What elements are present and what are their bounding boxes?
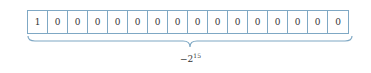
bit-cell: 0 [48,11,68,33]
bit-cell: 1 [28,11,48,33]
bit-cell: 0 [128,11,148,33]
bit-cell: 0 [168,11,188,33]
label-base: −2 [180,54,193,64]
bit-cell: 0 [208,11,228,33]
bit-cell: 0 [328,11,348,33]
underbrace [27,35,353,49]
bit-cell: 0 [248,11,268,33]
bit-cell: 0 [308,11,328,33]
bit-cell: 0 [88,11,108,33]
bit-cell: 0 [68,11,88,33]
bit-cell: 0 [148,11,168,33]
bit-cell: 0 [108,11,128,33]
label-exponent: 15 [193,52,201,59]
value-label: −215 [0,52,371,64]
bit-cell: 0 [228,11,248,33]
bit-cell: 0 [188,11,208,33]
bit-cell: 0 [288,11,308,33]
bit-row: 1 0 0 0 0 0 0 0 0 0 0 0 0 0 0 0 [27,10,349,34]
bit-cell: 0 [268,11,288,33]
